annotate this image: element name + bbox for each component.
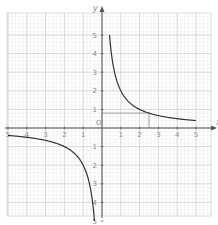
- y-axis-label: y: [92, 4, 98, 13]
- origin-label: O: [96, 119, 102, 127]
- y-tick-label: 1: [93, 106, 97, 114]
- x-tick-label: 5: [194, 131, 198, 139]
- axes: [5, 6, 217, 218]
- y-tick-label: 1: [93, 143, 97, 151]
- x-axis-label: x: [215, 118, 218, 127]
- major-gridlines: [7, 13, 211, 216]
- curve-positive-branch: [110, 35, 196, 121]
- y-tick-label: 5: [93, 32, 97, 40]
- y-tick-label: 2: [93, 87, 97, 95]
- x-tick-label: 2: [137, 131, 141, 139]
- graph-canvas: 54321123455432112345 x y O: [0, 0, 218, 225]
- x-tick-label: 1: [81, 131, 85, 139]
- x-tick-label: 3: [43, 131, 47, 139]
- y-tick-label: 4: [93, 50, 98, 58]
- function-graph: 54321123455432112345 x y O: [0, 0, 218, 225]
- y-tick-label: 2: [93, 162, 97, 170]
- x-tick-label: 1: [119, 131, 123, 139]
- minor-gridlines: [7, 13, 211, 216]
- axis-labels: x y O: [92, 4, 218, 127]
- curve-negative-branch: [8, 135, 94, 221]
- x-tick-label: 3: [156, 131, 160, 139]
- y-tick-label: 3: [93, 180, 97, 188]
- y-axis-arrow-icon: [100, 6, 105, 12]
- y-tick-label: 3: [93, 69, 97, 77]
- x-tick-label: 2: [62, 131, 66, 139]
- x-tick-label: 4: [175, 131, 180, 139]
